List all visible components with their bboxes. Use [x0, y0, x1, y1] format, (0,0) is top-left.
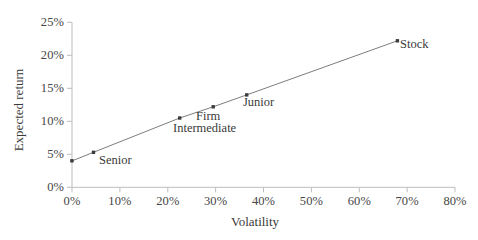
y-tick-label-10: 10% — [28, 114, 64, 129]
x-axis-ticks — [72, 187, 455, 192]
x-tick-label-30: 30% — [204, 194, 227, 209]
x-tick-label-10: 10% — [108, 194, 131, 209]
x-tick-label-60: 60% — [348, 194, 371, 209]
x-axis-title: Volatility — [231, 214, 279, 230]
x-tick-label-20: 20% — [156, 194, 179, 209]
y-axis-title: Expected return — [11, 69, 27, 152]
data-point-marker — [70, 159, 73, 162]
x-tick-label-0: 0% — [64, 194, 81, 209]
point-label-stock: Stock — [400, 38, 428, 52]
x-tick-label-80: 80% — [443, 194, 466, 209]
y-tick-label-20: 20% — [28, 48, 64, 63]
y-tick-label-15: 15% — [28, 81, 64, 96]
point-label-junior: Junior — [243, 96, 274, 110]
y-tick-label-5: 5% — [28, 147, 64, 162]
data-point-marker — [396, 39, 399, 42]
x-tick-label-40: 40% — [252, 194, 275, 209]
y-tick-label-25: 25% — [28, 15, 64, 30]
data-point-marker — [92, 151, 95, 154]
x-tick-label-50: 50% — [300, 194, 323, 209]
point-label-senior: Senior — [99, 154, 132, 168]
series-line — [72, 41, 397, 161]
point-label-intermediate: Intermediate — [173, 122, 236, 136]
chart-container: 0% 5% 10% 15% 20% 25% 0% 10% 20% 30% 40%… — [0, 0, 478, 240]
data-point-marker — [178, 116, 181, 119]
x-tick-label-70: 70% — [395, 194, 418, 209]
data-point-marker — [212, 105, 215, 108]
y-tick-label-0: 0% — [28, 180, 64, 195]
y-axis-ticks — [67, 22, 72, 187]
